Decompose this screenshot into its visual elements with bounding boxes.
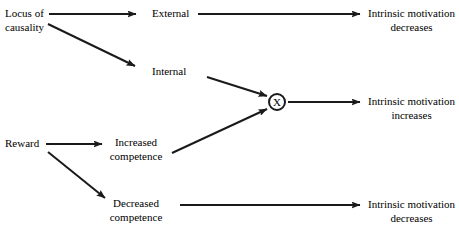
interaction-node-layer: X <box>0 0 459 240</box>
causality-reward-diagram: Locus of causality Reward External Inter… <box>0 0 459 240</box>
interaction-node-symbol: X <box>273 96 281 108</box>
